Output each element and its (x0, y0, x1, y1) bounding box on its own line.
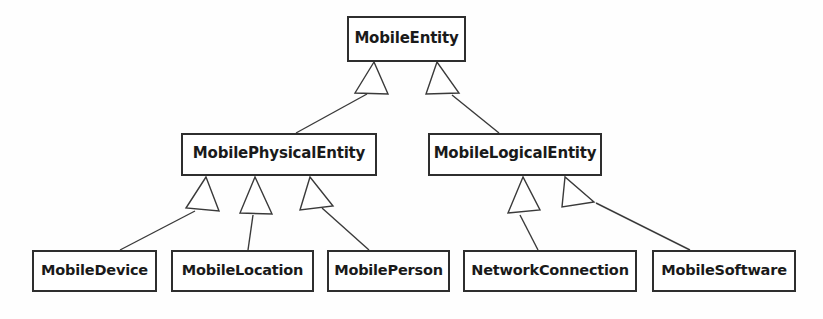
class-node-label: MobileEntity (354, 31, 458, 48)
edge-software-to-logical (562, 177, 690, 250)
class-node-label: MobileDevice (41, 263, 148, 280)
generalization-arrowhead-icon (186, 177, 219, 211)
class-node-mobile-software[interactable]: MobileSoftware (652, 250, 796, 292)
generalization-arrowhead-icon (562, 177, 594, 207)
generalization-arrowhead-icon (240, 177, 272, 214)
edge-person-to-physical (300, 177, 369, 250)
class-node-label: MobileSoftware (661, 263, 787, 280)
generalization-arrowhead-icon (426, 62, 459, 94)
generalization-arrowhead-icon (300, 177, 333, 210)
edge-location-to-physical (240, 177, 272, 250)
class-node-mobile-logical-entity[interactable]: MobileLogicalEntity (428, 133, 602, 176)
class-node-mobile-physical-entity[interactable]: MobilePhysicalEntity (181, 133, 377, 176)
class-node-label: MobilePhysicalEntity (193, 146, 365, 163)
class-node-network-connection[interactable]: NetworkConnection (463, 250, 637, 292)
edge-physical-to-entity (296, 62, 388, 133)
class-node-mobile-entity[interactable]: MobileEntity (347, 16, 466, 62)
class-node-label: NetworkConnection (471, 263, 629, 280)
class-node-label: MobilePerson (334, 263, 443, 280)
generalization-arrowhead-icon (355, 62, 388, 94)
edge-device-to-physical (120, 177, 219, 250)
class-node-label: MobileLocation (182, 263, 304, 280)
class-node-mobile-location[interactable]: MobileLocation (171, 250, 314, 292)
edge-logical-to-entity (426, 62, 499, 133)
edge-network-to-logical (508, 177, 540, 250)
class-node-label: MobileLogicalEntity (434, 146, 597, 163)
generalization-arrowhead-icon (508, 177, 540, 213)
class-node-mobile-person[interactable]: MobilePerson (327, 250, 450, 292)
uml-class-diagram: MobileEntity --> MobileEntity --> Mobile… (0, 0, 823, 319)
class-node-mobile-device[interactable]: MobileDevice (32, 250, 157, 292)
